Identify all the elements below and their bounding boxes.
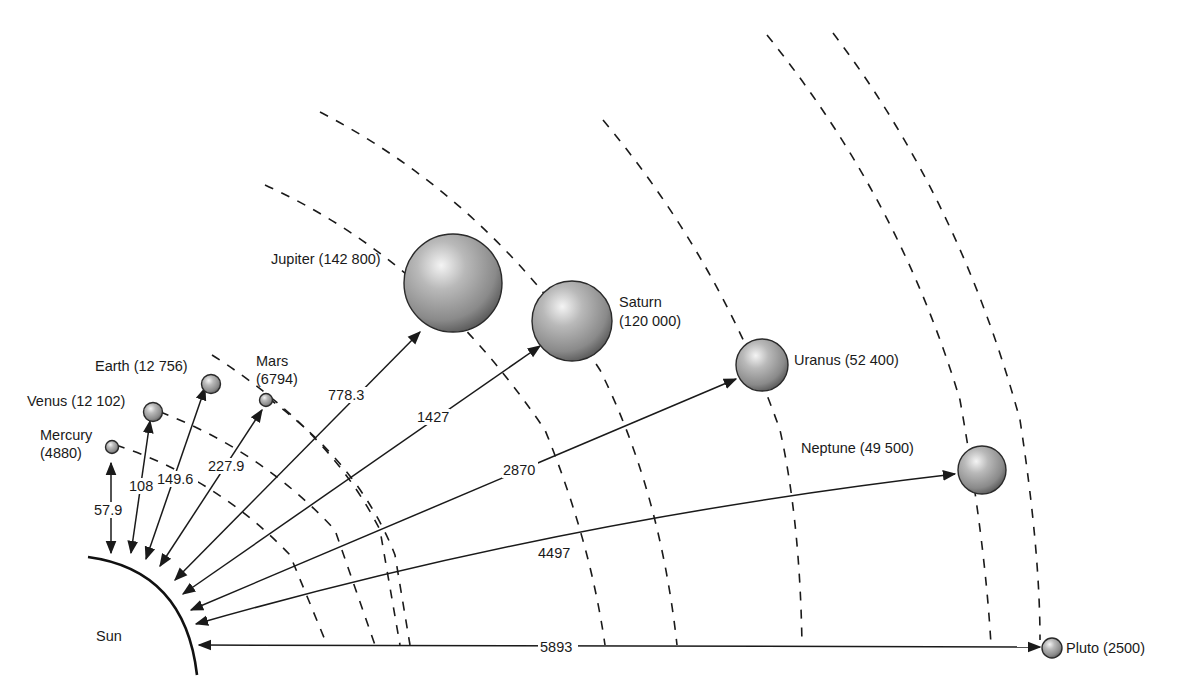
arrow-pluto	[199, 645, 1040, 647]
planet-earth	[202, 375, 221, 394]
orbit-neptune	[767, 35, 991, 645]
orbit-earth	[212, 355, 400, 645]
planet-label-neptune: Neptune (49 500)	[801, 440, 914, 456]
solar-system-diagram: Sun 57.9 108 149.6 227.9 778.3 1427 2870…	[0, 0, 1181, 686]
planet-label-mercury-diameter: (4880)	[40, 445, 82, 461]
distance-label-venus: 108	[129, 478, 153, 494]
distance-label-uranus: 2870	[503, 462, 535, 478]
distance-label-saturn: 1427	[417, 409, 449, 425]
planet-label-saturn-diameter: (120 000)	[619, 313, 681, 329]
planet-label-mars-name: Mars	[256, 353, 288, 369]
planet-mars	[260, 394, 273, 407]
planet-pluto	[1042, 638, 1062, 658]
planet-saturn	[532, 281, 612, 361]
arrow-jupiter	[175, 332, 420, 580]
planet-label-mercury-name: Mercury	[40, 427, 93, 443]
planet-label-venus: Venus (12 102)	[27, 393, 125, 409]
distance-label-neptune: 4497	[538, 545, 570, 561]
planet-label-saturn-name: Saturn	[619, 294, 662, 310]
planet-label-pluto: Pluto (2500)	[1066, 640, 1145, 656]
distance-label-mercury: 57.9	[94, 502, 122, 518]
distance-arrows	[111, 332, 1040, 647]
planet-neptune	[958, 446, 1006, 494]
planet-venus	[144, 403, 163, 422]
planet-mercury	[106, 441, 119, 454]
planet-label-earth: Earth (12 756)	[95, 358, 188, 374]
distance-label-mars: 227.9	[208, 458, 244, 474]
planet-label-uranus: Uranus (52 400)	[794, 352, 899, 368]
orbit-pluto	[833, 33, 1040, 640]
planet-jupiter	[404, 234, 502, 332]
planet-uranus	[736, 339, 788, 391]
distance-label-jupiter: 778.3	[328, 387, 364, 403]
planet-label-jupiter: Jupiter (142 800)	[271, 251, 381, 267]
orbit-mars	[268, 398, 410, 645]
distance-labels: 57.9 108 149.6 227.9 778.3 1427 2870 449…	[93, 387, 578, 655]
arrow-uranus	[191, 379, 736, 610]
sun-label: Sun	[96, 628, 122, 644]
distance-label-pluto: 5893	[540, 639, 572, 655]
planets	[106, 234, 1063, 658]
planet-label-mars-diameter: (6794)	[256, 371, 298, 387]
distance-label-earth: 149.6	[157, 471, 193, 487]
